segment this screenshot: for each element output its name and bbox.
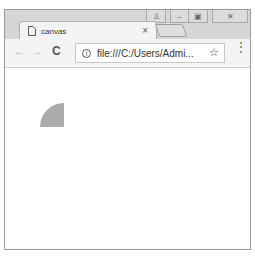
url-text[interactable]: file:///C:/Users/Admi... [97, 48, 194, 59]
tab-title: canvas [41, 27, 66, 36]
address-bar[interactable]: i file:///C:/Users/Admi... ☆ [75, 43, 225, 63]
canvas-quarter-circle [40, 103, 64, 127]
title-bar: ♙ – ▣ ✕ canvas × [5, 10, 250, 39]
forward-button[interactable]: → [32, 45, 43, 57]
close-icon: ✕ [227, 12, 234, 21]
new-tab-button[interactable] [155, 24, 188, 37]
tab-close-button[interactable]: × [142, 25, 148, 36]
minimize-button[interactable]: – [170, 10, 189, 23]
reload-button[interactable]: C [52, 44, 61, 58]
tab-canvas[interactable]: canvas × [19, 21, 157, 40]
toolbar: ← → C i file:///C:/Users/Admi... ☆ ⋮ [5, 39, 250, 68]
menu-button[interactable]: ⋮ [235, 45, 247, 49]
info-icon[interactable]: i [82, 49, 91, 58]
close-window-button[interactable]: ✕ [212, 10, 248, 23]
maximize-icon: ▣ [194, 12, 202, 21]
caption-buttons: ♙ – ▣ ✕ [146, 10, 248, 24]
bookmark-star-icon[interactable]: ☆ [209, 46, 219, 59]
browser-window: ♙ – ▣ ✕ canvas × ← → C i file:///C:/User… [4, 9, 251, 250]
back-button[interactable]: ← [14, 45, 25, 57]
maximize-button[interactable]: ▣ [189, 10, 208, 23]
page-icon [28, 26, 36, 36]
minimize-icon: – [177, 12, 181, 21]
page-content [5, 68, 250, 249]
user-icon: ♙ [153, 12, 160, 21]
